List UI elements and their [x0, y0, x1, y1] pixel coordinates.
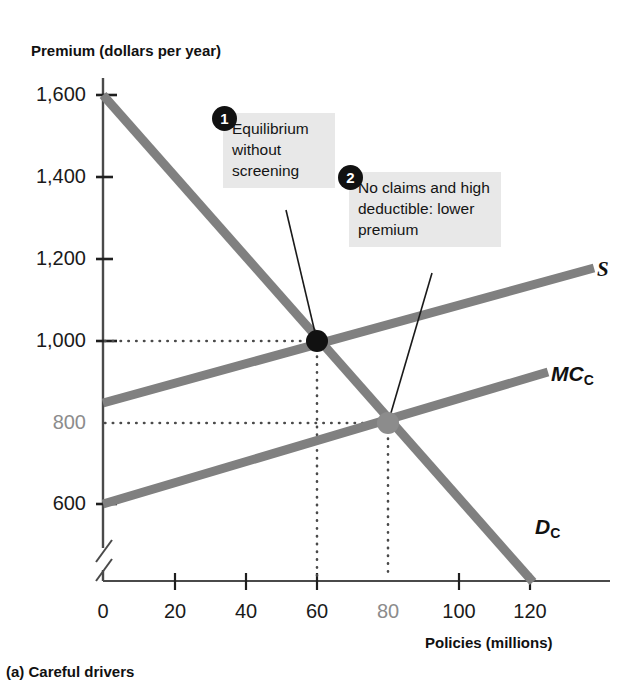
x-tick-label-120: 120 — [500, 600, 560, 623]
y-tick-label-800: 800 — [8, 411, 86, 434]
y-tick-label-1200: 1,200 — [8, 247, 86, 270]
chart-plot-area — [0, 0, 634, 695]
callout-badge-2: 2 — [338, 165, 363, 190]
point-no-claims-high-deductible — [377, 412, 399, 434]
y-tick-label-1000: 1,000 — [8, 329, 86, 352]
curve-label-d-base: D — [535, 515, 550, 538]
y-axis-title: Premium (dollars per year) — [31, 42, 221, 59]
figure-caption: (a) Careful drivers — [6, 663, 134, 680]
leader-line-callout-2 — [388, 273, 432, 423]
x-tick-label-0: 0 — [73, 600, 133, 623]
point-equilibrium-without-screening — [306, 330, 328, 352]
callout-badge-1: 1 — [212, 106, 237, 131]
callout-no-claims-high-deductible: No claims and high deductible: lower pre… — [349, 172, 501, 247]
curve-label-d-subscript: C — [550, 525, 560, 541]
x-tick-label-100: 100 — [429, 600, 489, 623]
x-tick-label-20: 20 — [145, 600, 205, 623]
x-tick-label-40: 40 — [216, 600, 276, 623]
curve-label-mc-subscript: C — [584, 372, 594, 388]
callout-equilibrium-without-screening: Equilibrium without screening — [223, 113, 335, 188]
x-tick-label-80: 80 — [358, 600, 418, 623]
marginal-cost-curve-mcc — [103, 372, 548, 504]
figure-careful-drivers: Premium (dollars per year) Policies (mil… — [0, 0, 634, 695]
curve-label-supply: S — [597, 257, 609, 282]
x-axis-title: Policies (millions) — [425, 634, 553, 651]
y-tick-label-1600: 1,600 — [8, 83, 86, 106]
curve-label-mc-base: MC — [551, 362, 584, 385]
y-tick-label-1400: 1,400 — [8, 165, 86, 188]
curve-label-demand: DC — [535, 515, 560, 541]
curve-label-marginal-cost: MCC — [551, 362, 594, 388]
y-tick-label-600: 600 — [8, 492, 86, 515]
y-tick-marks — [96, 95, 117, 504]
x-tick-label-60: 60 — [287, 600, 347, 623]
